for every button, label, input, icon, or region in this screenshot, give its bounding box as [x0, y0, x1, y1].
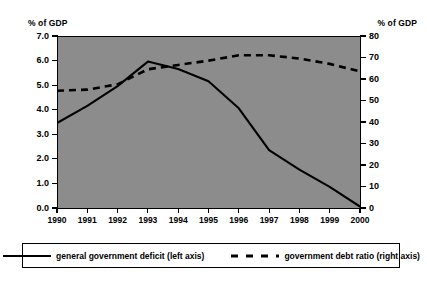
right-axis-tick-label: 70	[369, 53, 393, 62]
x-axis-tick-label: 1998	[282, 215, 316, 225]
left-axis-line	[57, 35, 58, 209]
right-axis-tick	[361, 121, 366, 122]
left-axis-tick	[52, 85, 57, 86]
left-axis-tick-label: 6.0	[19, 56, 49, 65]
x-axis-tick	[359, 208, 360, 213]
left-axis-tick	[52, 158, 57, 159]
left-axis-tick	[52, 35, 57, 36]
left-axis-tick-label: 2.0	[19, 154, 49, 163]
plot-area	[57, 36, 361, 209]
right-axis-tick	[361, 35, 366, 36]
x-axis-tick-label: 1995	[192, 215, 226, 225]
left-axis-tick-label: 3.0	[19, 130, 49, 139]
legend-swatch-dashed-line-icon	[230, 251, 280, 261]
x-axis-tick	[208, 208, 209, 213]
x-axis-tick-label: 1994	[161, 215, 195, 225]
left-axis-tick	[52, 134, 57, 135]
right-axis-tick-label: 30	[369, 139, 393, 148]
left-axis-tick-label: 0.0	[19, 204, 49, 213]
legend-entry-deficit: general government deficit (left axis)	[2, 251, 204, 261]
left-axis-tick	[52, 60, 57, 61]
right-axis-tick	[361, 207, 366, 208]
x-axis-tick-label: 1992	[101, 215, 135, 225]
x-axis-tick	[238, 208, 239, 213]
series-line-general-government-deficit	[57, 62, 360, 207]
left-axis-tick-label: 7.0	[19, 32, 49, 41]
right-axis-tick-label: 60	[369, 75, 393, 84]
x-axis-tick	[147, 208, 148, 213]
x-axis-tick-label: 1990	[40, 215, 74, 225]
x-axis-tick-label: 1999	[313, 215, 347, 225]
x-axis-tick-label: 1991	[70, 215, 104, 225]
right-axis-tick-label: 0	[369, 204, 393, 213]
right-axis-tick	[361, 57, 366, 58]
right-axis-tick-label: 20	[369, 161, 393, 170]
x-axis-tick	[269, 208, 270, 213]
right-axis-tick	[361, 186, 366, 187]
right-axis-tick	[361, 78, 366, 79]
left-axis-tick	[52, 109, 57, 110]
x-axis-tick-label: 1993	[131, 215, 165, 225]
right-axis-tick	[361, 143, 366, 144]
right-axis-tick-label: 10	[369, 182, 393, 191]
legend-entry-debt-ratio: government debt ratio (right axis)	[230, 251, 420, 261]
right-axis-unit-label: % of GDP	[377, 18, 417, 28]
x-axis-tick	[117, 208, 118, 213]
x-axis-tick-label: 1996	[222, 215, 256, 225]
x-axis-tick	[87, 208, 88, 213]
x-axis-tick	[329, 208, 330, 213]
right-axis-tick	[361, 100, 366, 101]
left-axis-tick-label: 4.0	[19, 105, 49, 114]
right-axis-tick-label: 80	[369, 32, 393, 41]
x-axis-tick	[178, 208, 179, 213]
right-axis-tick	[361, 164, 366, 165]
right-axis-tick-label: 50	[369, 96, 393, 105]
dual-axis-line-chart: % of GDP % of GDP 0.01.02.03.04.05.06.07…	[0, 0, 427, 285]
x-axis-tick-label: 1997	[252, 215, 286, 225]
series-line-government-debt-ratio	[57, 55, 360, 90]
left-axis-tick-label: 5.0	[19, 81, 49, 90]
x-axis-tick-label: 2000	[343, 215, 377, 225]
legend-label-debt-ratio: government debt ratio (right axis)	[284, 251, 420, 261]
plot-series-svg	[57, 37, 360, 209]
x-axis-tick	[56, 208, 57, 213]
left-axis-tick	[52, 183, 57, 184]
legend: general government deficit (left axis) g…	[22, 243, 400, 268]
legend-swatch-solid-line-icon	[2, 251, 52, 261]
left-axis-unit-label: % of GDP	[28, 18, 68, 28]
right-axis-tick-label: 40	[369, 118, 393, 127]
left-axis-tick-label: 1.0	[19, 179, 49, 188]
x-axis-tick	[299, 208, 300, 213]
legend-label-deficit: general government deficit (left axis)	[56, 251, 204, 261]
